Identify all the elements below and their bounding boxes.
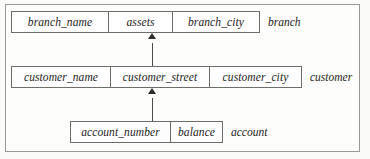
relation-name-account: account [231,121,267,143]
arrowhead-icon-customer-to-branch [148,33,156,39]
relation-name-branch: branch [268,11,301,33]
attribute-branch-city[interactable]: branch_city [173,12,259,32]
schema-table-customer[interactable]: customer_name customer_street customer_c… [11,66,302,88]
arrowhead-icon-account-to-customer [148,88,156,94]
attribute-account-number[interactable]: account_number [71,122,171,142]
diagram-canvas: branch_name assets branch_city branch cu… [0,0,370,159]
schema-table-account[interactable]: account_number balance [70,121,223,143]
connector-line-account-to-customer [152,98,153,121]
schema-table-branch[interactable]: branch_name assets branch_city [11,11,260,33]
attribute-assets[interactable]: assets [109,12,173,32]
attribute-customer-street[interactable]: customer_street [111,67,210,87]
attribute-customer-city[interactable]: customer_city [210,67,301,87]
attribute-customer-name[interactable]: customer_name [12,67,111,87]
attribute-balance[interactable]: balance [171,122,222,142]
connector-line-customer-to-branch [152,43,153,66]
attribute-branch-name[interactable]: branch_name [12,12,109,32]
relation-name-customer: customer [310,66,352,88]
